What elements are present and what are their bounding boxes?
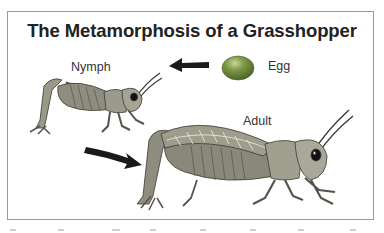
cropped-caption-strip	[0, 226, 384, 233]
egg-illustration	[221, 55, 257, 82]
egg-label: Egg	[268, 59, 290, 73]
adult-grasshopper-illustration	[135, 100, 365, 212]
diagram-title: The Metamorphosis of a Grasshopper	[0, 20, 384, 42]
arrow-left-icon	[168, 57, 210, 73]
